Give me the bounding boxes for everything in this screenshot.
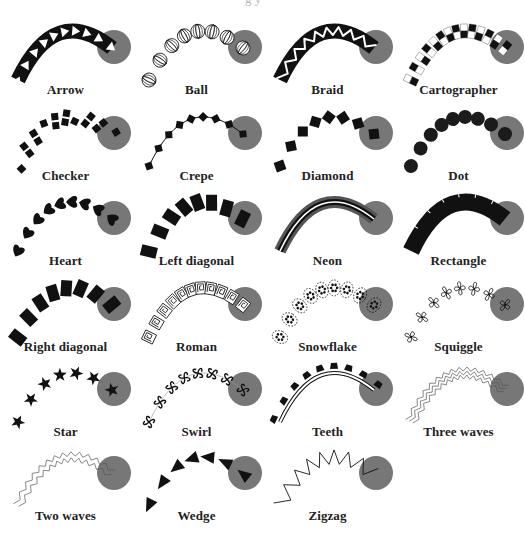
brush-style-label: Snowflake <box>262 339 393 355</box>
brush-style-label: Crepe <box>131 168 262 184</box>
brush-style-label: Ball <box>131 82 262 98</box>
brush-style-arrow[interactable]: Arrow <box>0 12 131 98</box>
brush-style-label: Checker <box>0 168 131 184</box>
brush-style-label: Arrow <box>0 82 131 98</box>
brush-style-label: Zigzag <box>262 508 393 524</box>
brush-style-left-diagonal[interactable]: Left diagonal <box>131 183 262 269</box>
brush-style-ball[interactable]: Ball <box>131 12 262 98</box>
brush-style-label: Roman <box>131 339 262 355</box>
brush-style-label: Right diagonal <box>0 339 131 355</box>
brush-style-dot[interactable]: Dot <box>393 98 524 184</box>
brush-style-cartographer[interactable]: Cartographer <box>393 12 524 98</box>
brush-style-heart[interactable]: Heart <box>0 183 131 269</box>
brush-style-label: Neon <box>262 253 393 269</box>
brush-style-label: Braid <box>262 82 393 98</box>
brush-style-neon[interactable]: Neon <box>262 183 393 269</box>
brush-style-label: Heart <box>0 253 131 269</box>
brush-style-label: Left diagonal <box>131 253 262 269</box>
brush-style-label: Dot <box>393 168 524 184</box>
brush-style-label: Squiggle <box>393 339 524 355</box>
brush-style-roman[interactable]: Roman <box>131 269 262 355</box>
brush-style-checker[interactable]: Checker <box>0 98 131 184</box>
brush-style-snowflake[interactable]: Snowflake <box>262 269 393 355</box>
brush-style-three-waves[interactable]: Three waves <box>393 354 524 440</box>
brush-style-braid[interactable]: Braid <box>262 12 393 98</box>
brush-style-swirl[interactable]: Swirl <box>131 354 262 440</box>
brush-style-label: Cartographer <box>393 82 524 98</box>
brush-style-two-waves[interactable]: Two waves <box>0 438 131 524</box>
brush-style-teeth[interactable]: Teeth <box>262 354 393 440</box>
brush-style-diamond[interactable]: Diamond <box>262 98 393 184</box>
brush-style-zigzag[interactable]: Zigzag <box>262 438 393 524</box>
brush-style-label: Wedge <box>131 508 262 524</box>
brush-style-label: Three waves <box>393 424 524 440</box>
brush-style-star[interactable]: Star <box>0 354 131 440</box>
brush-style-squiggle[interactable]: Squiggle <box>393 269 524 355</box>
brush-style-label: Rectangle <box>393 253 524 269</box>
brush-style-label: Two waves <box>0 508 131 524</box>
cropped-title-fragment: g y <box>245 0 261 7</box>
brush-style-rectangle[interactable]: Rectangle <box>393 183 524 269</box>
brush-style-right-diagonal[interactable]: Right diagonal <box>0 269 131 355</box>
brush-style-gallery: g y ArrowBallBraidCartographerCheckerCre… <box>0 0 525 553</box>
brush-style-crepe[interactable]: Crepe <box>131 98 262 184</box>
brush-style-label: Diamond <box>262 168 393 184</box>
brush-style-wedge[interactable]: Wedge <box>131 438 262 524</box>
